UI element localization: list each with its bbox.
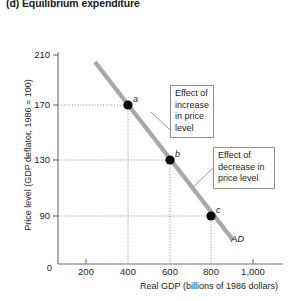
x-tick-label-800: 800 bbox=[191, 266, 231, 277]
data-point-b bbox=[165, 155, 174, 164]
x-tick-label-600: 600 bbox=[150, 266, 190, 277]
annotation-increase-price-level: Effect of increase in price level bbox=[170, 85, 214, 138]
x-axis-label: Real GDP (billions of 1986 dollars) bbox=[129, 281, 289, 291]
x-tick-label-400: 400 bbox=[108, 266, 148, 277]
y-axis-label: Price level (GDP deflator, 1986 = 100) bbox=[23, 75, 33, 235]
annotation-increase-line1: Effect of bbox=[175, 88, 210, 100]
y-axis-ticks bbox=[53, 55, 58, 216]
equilibrium-expenditure-chart: (d) Equilibrium expenditure bbox=[0, 0, 289, 301]
origin-label: 0 bbox=[38, 262, 52, 273]
data-point-a bbox=[123, 100, 132, 109]
annotation-decrease-line3: price level bbox=[218, 173, 271, 185]
leader-line-decrease bbox=[192, 168, 213, 188]
annotation-increase-line2: increase bbox=[175, 100, 210, 112]
point-label-a: a bbox=[133, 94, 138, 104]
point-label-c: c bbox=[216, 205, 221, 215]
annotation-increase-line3: in price bbox=[175, 111, 210, 123]
y-tick-label-130: 130 bbox=[16, 154, 50, 165]
leader-line-increase bbox=[151, 112, 170, 130]
annotation-decrease-line2: decrease in bbox=[218, 162, 271, 174]
annotation-decrease-line1: Effect of bbox=[218, 150, 271, 162]
data-point-c bbox=[206, 211, 215, 220]
annotation-increase-line4: level bbox=[175, 123, 210, 135]
point-label-b: b bbox=[175, 149, 180, 159]
x-tick-label-1000: 1,000 bbox=[233, 266, 273, 277]
x-tick-label-200: 200 bbox=[66, 266, 106, 277]
y-tick-label-170: 170 bbox=[16, 99, 50, 110]
annotation-decrease-price-level: Effect of decrease in price level bbox=[213, 147, 275, 189]
y-tick-label-210: 210 bbox=[16, 49, 50, 60]
y-tick-label-90: 90 bbox=[16, 210, 50, 221]
ad-curve-label: AD bbox=[231, 233, 244, 244]
